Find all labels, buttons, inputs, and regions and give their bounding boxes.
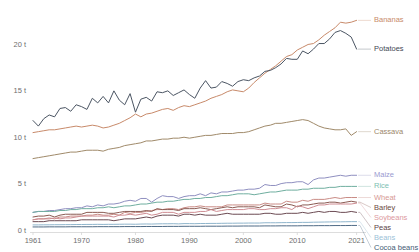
series-layer	[33, 20, 357, 227]
x-axis-tick-label: 1990	[181, 236, 198, 245]
x-axis-tick-group: 1961197019801990200020102021	[25, 233, 365, 246]
y-axis-tick-label: 20 t	[13, 40, 26, 49]
series-line-bananas	[33, 20, 357, 132]
x-axis-tick-label: 1980	[127, 236, 144, 245]
x-axis-tick-label: 2021	[348, 236, 365, 245]
series-label-beans[interactable]: Beans	[374, 233, 396, 242]
series-line-cassava	[33, 120, 357, 159]
y-axis-tick-label: 5 t	[18, 179, 27, 188]
series-label-peas[interactable]: Peas	[374, 223, 391, 232]
series-label-potatoes[interactable]: Potatoes	[374, 44, 404, 53]
x-axis-tick-label: 1970	[73, 236, 90, 245]
series-label-bananas[interactable]: Bananas	[374, 15, 404, 24]
series-label-leader	[358, 203, 371, 217]
series-line-soybeans	[33, 203, 357, 220]
y-axis-tick-group: 0 t5 t10 t15 t20 t	[13, 40, 26, 235]
x-axis-tick-label: 2010	[289, 236, 306, 245]
series-label-wheat[interactable]: Wheat	[374, 193, 397, 202]
series-label-cassava[interactable]: Cassava	[374, 127, 404, 136]
series-label-rice[interactable]: Rice	[374, 181, 389, 190]
line-chart: 0 t5 t10 t15 t20 t 196119701980199020002…	[0, 0, 419, 252]
series-label-barley[interactable]: Barley	[374, 203, 396, 212]
y-axis-tick-label: 0 t	[18, 226, 27, 235]
series-line-beans	[33, 222, 357, 225]
series-label-soybeans[interactable]: Soybeans	[374, 213, 408, 222]
series-label-maize[interactable]: Maize	[374, 170, 394, 179]
series-line-cocoa-beans	[33, 225, 357, 226]
chart-plot-area: 0 t5 t10 t15 t20 t 196119701980199020002…	[0, 0, 419, 252]
y-axis-tick-label: 15 t	[13, 86, 26, 95]
series-label-cocoa-beans[interactable]: Cocoa beans	[374, 243, 418, 252]
series-label-layer: BananasPotatoesCassavaMaizeRiceWheatBarl…	[358, 15, 418, 251]
x-axis-tick-label: 1961	[25, 236, 42, 245]
x-axis-tick-label: 2000	[235, 236, 252, 245]
y-axis-tick-label: 10 t	[13, 133, 26, 142]
